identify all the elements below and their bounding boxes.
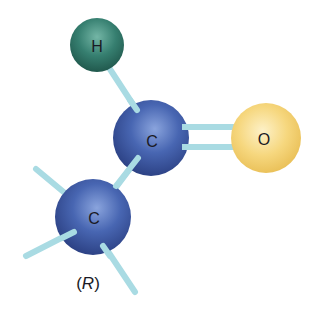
alpha-carbon-label: C	[88, 210, 100, 227]
r-group-label: (R)	[76, 274, 100, 293]
r-group-letter: R	[82, 274, 94, 293]
atom-oxygen: O	[231, 103, 301, 173]
bonds	[26, 60, 238, 292]
atom-carbonyl-carbon: C	[113, 100, 190, 176]
oxygen-label: O	[258, 131, 270, 148]
atom-alpha-carbon: C	[55, 158, 138, 256]
carbonyl-carbon-label: C	[146, 133, 158, 150]
bond-stub-upper-left	[36, 169, 66, 194]
molecule-diagram: H O C C (R)	[0, 0, 318, 316]
hydrogen-label: H	[91, 38, 103, 55]
atom-hydrogen: H	[70, 18, 124, 72]
